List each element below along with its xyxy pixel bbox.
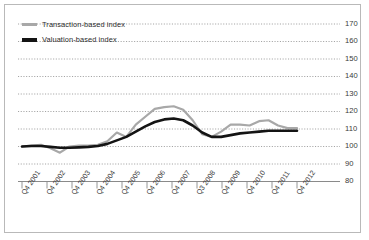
y-axis-tick-label: 140 [345, 72, 358, 80]
y-axis-tick-label: 130 [345, 90, 358, 98]
gray-line-swatch-icon [22, 23, 37, 26]
chart-legend: Transaction-based index Valuation-based … [22, 18, 162, 48]
y-axis-tick-label: 80 [345, 177, 353, 185]
legend-label-valuation: Valuation-based index [42, 35, 117, 44]
y-axis-tick-label: 120 [345, 107, 358, 115]
y-axis-tick-label: 170 [345, 20, 358, 28]
y-axis-tick-label: 110 [345, 125, 357, 133]
legend-item-transaction: Transaction-based index [22, 18, 162, 31]
y-axis-tick-label: 160 [345, 37, 358, 45]
y-axis-tick-label: 150 [345, 55, 358, 63]
chart-plot-area: Transaction-based index Valuation-based … [0, 0, 369, 240]
chart-screenshot: Transaction-based index Valuation-based … [0, 0, 369, 240]
y-axis-tick-label: 90 [345, 160, 353, 168]
black-line-swatch-icon [22, 38, 37, 42]
y-axis-tick-label: 100 [345, 142, 358, 150]
legend-label-transaction: Transaction-based index [42, 20, 125, 29]
legend-item-valuation: Valuation-based index [22, 33, 162, 46]
